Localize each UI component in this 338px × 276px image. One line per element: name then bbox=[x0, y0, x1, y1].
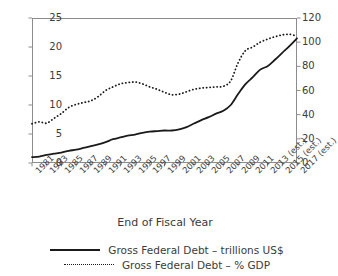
legend-item-trillions: Gross Federal Debt – trillions US$ bbox=[46, 243, 283, 256]
y-axis-left-tick-label: 5 bbox=[38, 129, 62, 139]
y-axis-right-tick-label: 100 bbox=[302, 37, 328, 47]
y-axis-left-tick-label: 10 bbox=[38, 100, 62, 110]
series-line-pct-gdp bbox=[32, 34, 297, 123]
y-axis-right-tick-label: 40 bbox=[302, 110, 328, 120]
x-axis-title: End of Fiscal Year bbox=[0, 216, 330, 229]
y-axis-left-tick-label: 25 bbox=[38, 13, 62, 23]
legend-label-pct-gdp: Gross Federal Debt – % GDP bbox=[118, 259, 270, 271]
y-axis-left-tick-label: 20 bbox=[38, 42, 62, 52]
y-axis-right-tick-label: 120 bbox=[302, 13, 328, 23]
tick-marks bbox=[29, 18, 301, 167]
legend-solid-line-icon bbox=[46, 244, 104, 255]
legend-label-trillions: Gross Federal Debt – trillions US$ bbox=[104, 244, 283, 256]
legend-item-pct-gdp: Gross Federal Debt – % GDP bbox=[60, 258, 270, 271]
chart-legend: Gross Federal Debt – trillions US$ Gross… bbox=[0, 243, 330, 271]
legend-dotted-line-icon bbox=[60, 259, 118, 270]
y-axis-left-tick-label: 15 bbox=[38, 71, 62, 81]
series-line-trillions bbox=[32, 38, 297, 157]
y-axis-right-tick-label: 60 bbox=[302, 86, 328, 96]
y-axis-right-tick-label: 80 bbox=[302, 61, 328, 71]
